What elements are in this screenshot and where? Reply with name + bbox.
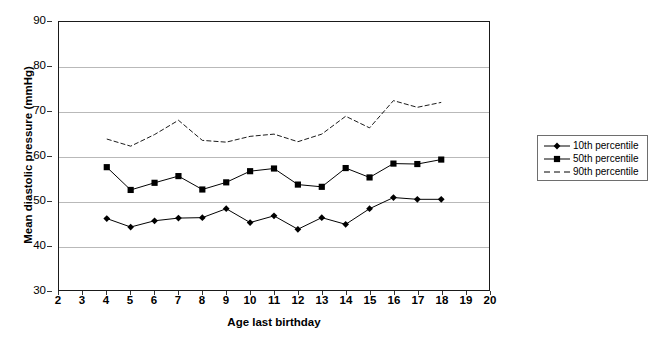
x-tick-label-6: 6 (151, 294, 157, 306)
legend-item-3: 90th percentile (542, 165, 642, 178)
legend-swatch-square-icon (542, 153, 572, 165)
y-tick-label-30: 30 (33, 285, 46, 296)
legend-label: 10th percentile (572, 141, 639, 151)
data-point (175, 173, 181, 179)
data-point (366, 205, 373, 212)
x-tick-label-7: 7 (175, 294, 181, 306)
y-tick-mark-70 (47, 111, 52, 112)
data-point (151, 217, 158, 224)
x-tick-label-16: 16 (388, 294, 401, 306)
data-point (247, 219, 254, 226)
y-tick-label-60: 60 (33, 150, 46, 161)
data-point (199, 214, 206, 221)
plot-area (58, 21, 490, 291)
data-point (438, 156, 444, 162)
data-point (390, 161, 396, 167)
y-tick-label-40: 40 (33, 240, 46, 251)
x-tick-label-19: 19 (460, 294, 473, 306)
data-point (199, 186, 205, 192)
data-point (295, 182, 301, 188)
data-series-layer (59, 22, 489, 290)
y-tick-mark-50 (47, 201, 52, 202)
series-90th-percentile (107, 101, 441, 147)
x-tick-label-5: 5 (127, 294, 133, 306)
data-point (128, 187, 134, 193)
data-point (271, 212, 278, 219)
y-tick-label-90: 90 (33, 15, 46, 26)
series-line (107, 101, 441, 147)
data-point (104, 164, 110, 170)
data-point (318, 214, 325, 221)
y-tick-label-80: 80 (33, 60, 46, 71)
legend-item-1: 10th percentile (542, 140, 642, 153)
x-tick-label-12: 12 (292, 294, 305, 306)
x-tick-label-8: 8 (199, 294, 205, 306)
x-axis-tick-labels: 234567891011121314151617181920 (58, 294, 490, 312)
x-tick-label-4: 4 (103, 294, 109, 306)
data-point (175, 215, 182, 222)
data-point (127, 224, 134, 231)
x-tick-label-20: 20 (484, 294, 497, 306)
data-point (295, 226, 302, 233)
legend-label: 50th percentile (572, 154, 639, 164)
data-point (319, 184, 325, 190)
legend-swatch-diamond-icon (542, 140, 572, 152)
data-point (223, 205, 230, 212)
data-point (414, 196, 421, 203)
data-point (414, 161, 420, 167)
x-tick-label-9: 9 (223, 294, 229, 306)
x-tick-label-3: 3 (79, 294, 85, 306)
legend-label: 90th percentile (572, 167, 639, 177)
y-tick-mark-60 (47, 156, 52, 157)
y-tick-mark-40 (47, 246, 52, 247)
y-tick-mark-80 (47, 66, 52, 67)
x-tick-label-10: 10 (244, 294, 257, 306)
x-tick-label-17: 17 (412, 294, 425, 306)
data-point (103, 215, 110, 222)
y-tick-label-50: 50 (33, 195, 46, 206)
y-axis-tick-labels: 30405060708090 (0, 0, 52, 351)
data-point (342, 221, 349, 228)
series-50th-percentile (104, 156, 445, 193)
y-tick-mark-90 (47, 21, 52, 22)
data-point (247, 168, 253, 174)
series-10th-percentile (103, 194, 444, 232)
legend-swatch-none-icon (542, 166, 572, 178)
x-tick-label-14: 14 (340, 294, 353, 306)
x-tick-label-13: 13 (316, 294, 329, 306)
x-tick-label-11: 11 (268, 294, 280, 306)
chart-figure: Mean diastolic pressure (mmHg) 304050607… (0, 0, 668, 351)
x-tick-label-18: 18 (436, 294, 449, 306)
chart-legend: 10th percentile50th percentile90th perce… (537, 135, 648, 181)
x-tick-label-2: 2 (55, 294, 61, 306)
legend-item-2: 50th percentile (542, 153, 642, 166)
data-point (343, 165, 349, 171)
data-point (366, 174, 372, 180)
data-point (223, 179, 229, 185)
x-axis-title: Age last birthday (58, 316, 490, 328)
y-tick-label-70: 70 (33, 105, 46, 116)
y-tick-mark-30 (47, 291, 52, 292)
data-point (271, 165, 277, 171)
data-point (390, 194, 397, 201)
data-point (438, 196, 445, 203)
data-point (151, 180, 157, 186)
x-tick-label-15: 15 (364, 294, 377, 306)
